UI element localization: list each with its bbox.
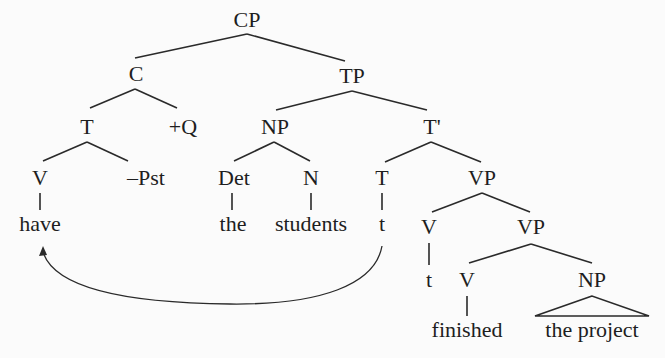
node-n: N xyxy=(303,167,319,189)
branch-np-det xyxy=(234,142,274,161)
node-t-trace: T xyxy=(375,167,388,189)
word-v-trace: t xyxy=(426,269,432,291)
branch-t-pst xyxy=(87,142,128,161)
node-neg-past: –Pst xyxy=(127,167,165,189)
node-t-bar: T' xyxy=(423,116,440,138)
branch-tbar-vp xyxy=(431,142,481,162)
branch-cp-tp xyxy=(247,34,345,61)
arrowhead-icon xyxy=(39,246,47,256)
movement-arrow xyxy=(43,246,382,304)
node-cp: CP xyxy=(234,9,261,31)
branch-vp-np xyxy=(531,244,592,263)
branch-tp-np xyxy=(276,91,352,110)
np-triangle xyxy=(535,296,649,316)
word-t-trace: t xyxy=(379,213,385,235)
word-finished: finished xyxy=(432,319,503,341)
node-vp-low: VP xyxy=(517,216,545,238)
branch-tp-tbar xyxy=(352,91,427,110)
node-v-finished: V xyxy=(459,269,475,291)
branch-c-q xyxy=(135,89,177,108)
node-tp: TP xyxy=(339,65,365,87)
branch-tbar-t xyxy=(385,142,431,162)
node-v-trace: V xyxy=(421,216,437,238)
node-det: Det xyxy=(218,167,250,189)
branch-c-t xyxy=(90,89,135,108)
node-np-object: NP xyxy=(578,269,606,291)
node-t-head: T xyxy=(80,116,93,138)
tree-branches xyxy=(0,0,665,358)
branch-t-v xyxy=(43,142,87,161)
node-q-feature: +Q xyxy=(169,116,197,138)
node-vp-top: VP xyxy=(468,167,496,189)
syntax-tree-diagram: CP C TP T +Q NP T' V –Pst Det N T VP hav… xyxy=(0,0,665,358)
node-np-subject: NP xyxy=(261,116,289,138)
word-have: have xyxy=(19,213,61,235)
branch-vp-v xyxy=(432,193,482,212)
branch-vp-vfinished xyxy=(469,244,531,263)
word-the: the xyxy=(220,213,247,235)
branch-np-n xyxy=(274,142,310,161)
node-v-have: V xyxy=(32,167,48,189)
branch-cp-c xyxy=(135,34,247,58)
word-the-project: the project xyxy=(545,319,638,341)
word-students: students xyxy=(275,213,347,235)
branch-vp-vp xyxy=(482,193,530,212)
node-c: C xyxy=(129,63,144,85)
